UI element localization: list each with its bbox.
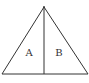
region-label-a: A <box>24 47 33 58</box>
apex-point <box>43 6 45 8</box>
region-label-b: B <box>55 47 62 58</box>
triangle-outline <box>2 7 88 74</box>
triangle-diagram: A B <box>0 0 89 83</box>
